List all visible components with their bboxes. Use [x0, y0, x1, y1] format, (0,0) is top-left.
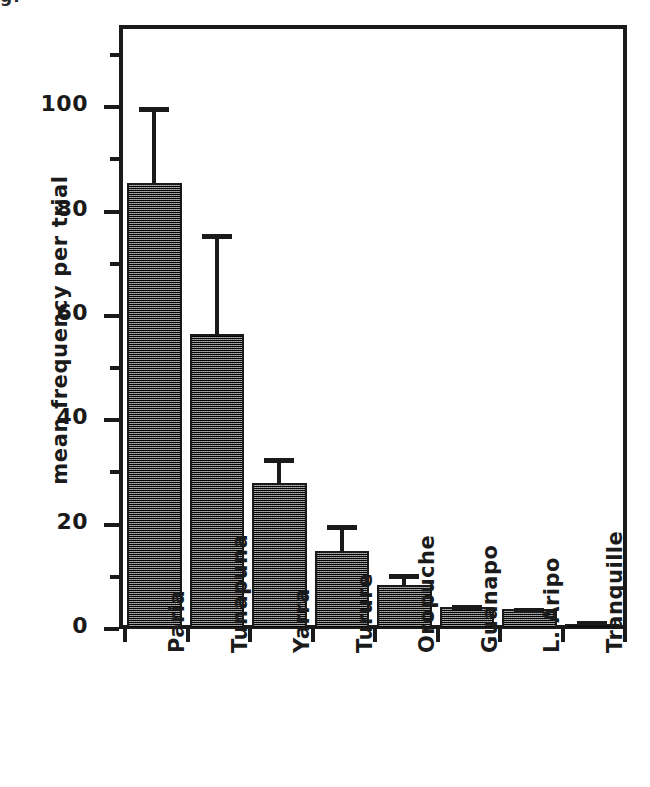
x-tick	[123, 629, 127, 642]
x-tick	[186, 629, 190, 642]
y-tick-minor	[110, 470, 119, 474]
x-tick	[498, 629, 502, 642]
y-tick-label: 80	[18, 196, 88, 221]
error-bar-stem	[152, 107, 156, 183]
error-bar	[127, 107, 182, 183]
plot-area: 020406080100PariaTunapunaYarraTurureOrop…	[123, 29, 623, 629]
x-tick	[623, 629, 627, 642]
bar	[127, 183, 182, 629]
y-axis-title: mean frequency per trial	[48, 30, 72, 630]
x-axis-label: Yarra	[290, 588, 314, 653]
y-tick-major	[104, 105, 119, 109]
x-tick	[248, 629, 252, 642]
clipped-caption-text: g.	[0, 0, 220, 6]
y-tick-major	[104, 523, 119, 527]
error-bar-cap	[264, 458, 294, 463]
y-tick-label: 100	[18, 91, 88, 116]
y-tick-major	[104, 418, 119, 422]
y-tick-minor	[110, 575, 119, 579]
error-bar-cap	[202, 234, 232, 239]
y-tick-label: 0	[18, 613, 88, 638]
error-bar	[315, 525, 370, 551]
y-tick-minor	[110, 157, 119, 161]
figure-container: g. mean frequency per trial 020406080100…	[0, 0, 650, 787]
error-bar-cap	[327, 525, 357, 530]
y-tick-label: 60	[18, 300, 88, 325]
x-tick	[436, 629, 440, 642]
y-tick-major	[104, 210, 119, 214]
error-bar-cap	[139, 107, 169, 112]
x-tick	[311, 629, 315, 642]
error-bar	[190, 234, 245, 334]
error-bar	[252, 458, 307, 483]
x-tick	[561, 629, 565, 642]
x-axis-label: Paria	[165, 590, 189, 653]
y-tick-major	[104, 314, 119, 318]
y-tick-label: 20	[18, 509, 88, 534]
x-tick	[373, 629, 377, 642]
y-tick-label: 40	[18, 404, 88, 429]
error-bar-stem	[215, 234, 219, 334]
y-tick-major	[104, 627, 119, 631]
y-tick-minor	[110, 366, 119, 370]
y-tick-minor	[110, 262, 119, 266]
y-tick-minor	[110, 53, 119, 57]
